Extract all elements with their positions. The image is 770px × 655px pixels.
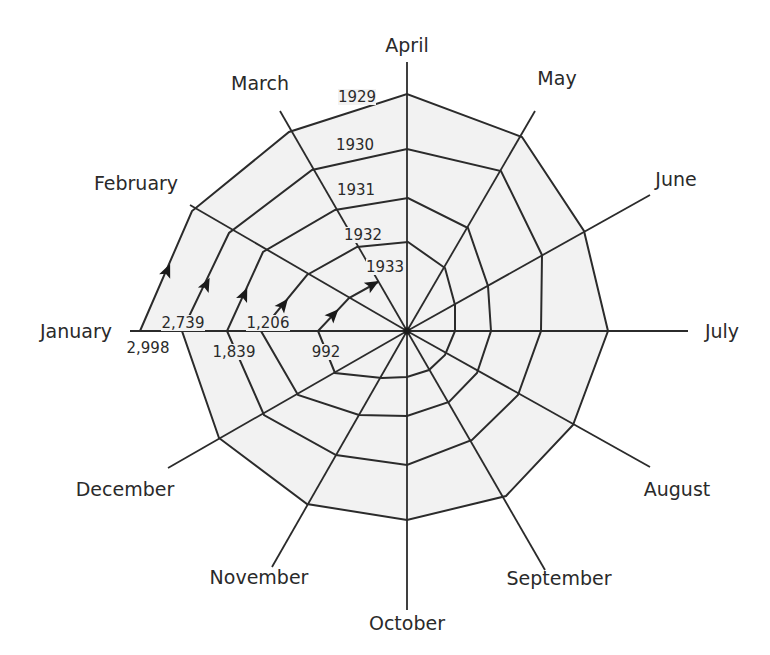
january-value-1931: 1,839 — [213, 343, 256, 361]
month-label-august: August — [644, 478, 711, 500]
year-label-1931: 1931 — [337, 181, 375, 199]
month-label-march: March — [231, 72, 289, 94]
month-label-june: June — [654, 168, 696, 190]
center-dot — [404, 328, 411, 335]
january-value-1930: 2,739 — [162, 314, 205, 332]
spiral-fill — [140, 94, 608, 520]
month-label-february: February — [94, 172, 178, 194]
center-point — [404, 328, 411, 335]
spiral-chart: JanuaryFebruaryMarchAprilMayJuneJulyAugu… — [0, 0, 770, 655]
outer-ring-fill — [140, 94, 608, 520]
january-value-1933: 992 — [312, 343, 341, 361]
year-label-1933: 1933 — [366, 258, 404, 276]
year-label-1930: 1930 — [336, 136, 374, 154]
month-label-september: September — [506, 567, 611, 589]
month-label-december: December — [76, 478, 175, 500]
month-label-january: January — [39, 320, 112, 342]
month-label-october: October — [369, 612, 445, 634]
month-label-may: May — [537, 67, 576, 89]
month-label-july: July — [704, 320, 739, 342]
january-value-1929: 2,998 — [127, 339, 170, 357]
year-label-1932: 1932 — [344, 226, 382, 244]
month-label-november: November — [210, 566, 309, 588]
january-value-1932: 1,206 — [247, 314, 290, 332]
month-label-april: April — [385, 34, 428, 56]
year-label-1929: 1929 — [338, 88, 376, 106]
